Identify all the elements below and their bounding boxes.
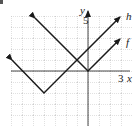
corner-mark — [0, 0, 3, 4]
x-axis-label: x — [126, 72, 132, 84]
graph: y 5 3 x h f — [0, 0, 140, 129]
curve-h-label: h — [126, 10, 132, 22]
y-tick-5: 5 — [83, 14, 89, 26]
x-tick-3: 3 — [118, 72, 124, 84]
